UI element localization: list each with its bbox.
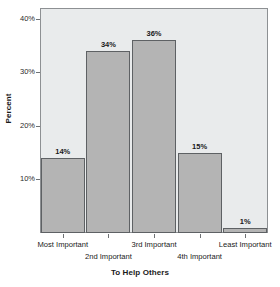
plot-area (40, 8, 268, 233)
y-tick-label: 10% (8, 174, 35, 183)
y-tick-label: 30% (8, 67, 35, 76)
x-tick-label: 2nd Important (63, 252, 153, 261)
x-tick-mark (108, 234, 109, 238)
bar (178, 153, 222, 233)
x-tick-label: Least Important (200, 240, 280, 249)
x-tick-label: 4th Important (155, 252, 245, 261)
x-axis-title: To Help Others (0, 268, 280, 277)
x-tick-mark (63, 234, 64, 238)
bar-value-label: 14% (38, 147, 88, 156)
bar (223, 228, 267, 233)
x-tick-mark (200, 234, 201, 238)
bar-value-label: 36% (129, 29, 179, 38)
bar-value-label: 15% (175, 142, 225, 151)
y-tick-label: 20% (8, 121, 35, 130)
x-tick-label: 3rd Important (109, 240, 199, 249)
x-tick-mark (245, 234, 246, 238)
x-tick-label: Most Important (18, 240, 108, 249)
bar-value-label: 34% (83, 40, 133, 49)
bar (132, 40, 176, 233)
bar (86, 51, 130, 233)
y-tick-label: 40% (8, 14, 35, 23)
bar-chart-figure: Percent 10%20%30%40% 14%34%36%15%1% Most… (0, 0, 280, 287)
bar-value-label: 1% (220, 217, 270, 226)
bar (41, 158, 85, 233)
x-tick-mark (154, 234, 155, 238)
